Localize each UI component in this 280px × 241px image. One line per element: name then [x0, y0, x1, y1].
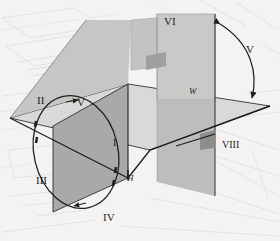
label-quadrant-1: I [113, 138, 116, 148]
label-quadrant-4: IV [103, 212, 115, 223]
label-plane-right-lower: VIII [222, 140, 239, 150]
profile-plane [157, 14, 215, 196]
label-rotation-arrow-right: V [246, 44, 254, 55]
rotation-arc [220, 24, 254, 98]
label-axis-h: H [127, 174, 134, 183]
label-quadrant-3: III [36, 175, 47, 186]
label-plane-top-rear: VI [164, 16, 176, 27]
figure-canvas: II V III IV I H W VI V VIII [0, 0, 280, 241]
label-rotation-arrow-left: V [77, 97, 85, 108]
label-axis-w: W [189, 87, 197, 96]
projection-planes-drawing [0, 0, 280, 241]
label-quadrant-2: II [37, 95, 44, 106]
